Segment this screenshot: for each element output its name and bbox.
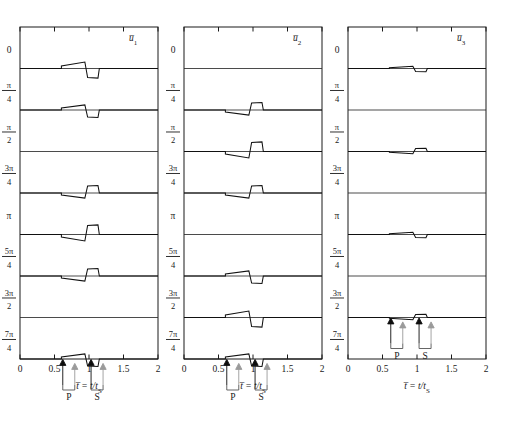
azimuth-label: 7π4 xyxy=(2,329,16,353)
svg-text:7π: 7π xyxy=(333,329,342,339)
component-label: u̅1 xyxy=(129,33,138,47)
p-phase-label: P xyxy=(394,351,399,361)
p-phase-label: P xyxy=(230,392,235,402)
panel-u2: 00.511.52t̅ = t/tSu̅20π4π23π4π5π43π27π4P… xyxy=(164,0,334,429)
azimuth-label: 3π4 xyxy=(330,163,344,187)
svg-text:t̅ = t/tS: t̅ = t/tS xyxy=(404,381,430,395)
svg-text:π: π xyxy=(7,122,12,132)
azimuth-label: π2 xyxy=(2,122,16,146)
svg-text:4: 4 xyxy=(335,343,340,353)
waveform-trace xyxy=(348,66,486,71)
azimuth-label: 3π2 xyxy=(2,288,16,312)
s-phase-label: S xyxy=(94,392,99,402)
p-phase-label: P xyxy=(66,392,71,402)
svg-text:3π: 3π xyxy=(333,288,342,298)
p-arrow-dark xyxy=(60,359,66,385)
svg-text:4: 4 xyxy=(171,94,176,104)
azimuth-label: π2 xyxy=(166,122,180,146)
p-arrow-light xyxy=(400,322,406,344)
p-marker-bracket xyxy=(63,385,75,390)
x-tick-label: 1.5 xyxy=(446,364,458,374)
x-tick-label: 1.5 xyxy=(118,364,130,374)
svg-text:3π: 3π xyxy=(169,163,178,173)
panel-u2-canvas: 00.511.52t̅ = t/tSu̅20π4π23π4π5π43π27π4P… xyxy=(164,0,334,429)
waveform-trace xyxy=(184,142,322,158)
svg-text:3π: 3π xyxy=(333,163,342,173)
azimuth-label: π xyxy=(7,211,12,221)
s-arrow-light xyxy=(100,363,106,385)
svg-text:4: 4 xyxy=(335,177,340,187)
svg-text:2: 2 xyxy=(7,301,11,311)
p-arrow-dark xyxy=(224,359,230,385)
seismogram-figure: 00.511.52t̅ = t/tSu̅10π4π23π4π5π43π27π4P… xyxy=(0,0,510,429)
x-tick-label: 0.5 xyxy=(49,364,61,374)
svg-text:5π: 5π xyxy=(5,246,14,256)
x-axis-title: t̅ = t/tS xyxy=(404,381,430,395)
svg-text:3π: 3π xyxy=(5,163,14,173)
s-arrow-dark xyxy=(416,318,422,344)
svg-text:4: 4 xyxy=(7,343,12,353)
azimuth-label: 3π2 xyxy=(330,288,344,312)
svg-text:7π: 7π xyxy=(5,329,14,339)
s-phase-label: S xyxy=(422,351,427,361)
p-arrow-dark xyxy=(388,318,394,344)
component-label: u̅3 xyxy=(457,33,466,47)
svg-text:4: 4 xyxy=(335,94,340,104)
x-tick-label: 1.5 xyxy=(282,364,294,374)
waveform-trace xyxy=(348,232,486,237)
azimuth-label: π xyxy=(335,211,340,221)
azimuth-label: π4 xyxy=(2,80,16,104)
azimuth-label: π4 xyxy=(166,80,180,104)
svg-text:u̅1: u̅1 xyxy=(129,33,138,47)
component-label: u̅2 xyxy=(293,33,302,47)
svg-text:u̅3: u̅3 xyxy=(457,33,466,47)
waveform-trace xyxy=(20,269,158,282)
x-tick-label: 2 xyxy=(156,364,161,374)
waveform-trace xyxy=(348,314,486,319)
svg-text:5π: 5π xyxy=(169,246,178,256)
panel-u3: 00.511.52t̅ = t/tSu̅30π4π23π4π5π43π27π4P… xyxy=(328,0,498,429)
svg-text:π: π xyxy=(335,122,340,132)
s-arrow-light xyxy=(428,322,434,344)
svg-text:2: 2 xyxy=(7,135,11,145)
x-tick-label: 2 xyxy=(484,364,489,374)
panel-u1-canvas: 00.511.52t̅ = t/tSu̅10π4π23π4π5π43π27π4P… xyxy=(0,0,170,429)
s-phase-label: S xyxy=(258,392,263,402)
waveform-trace xyxy=(20,105,158,118)
svg-text:3π: 3π xyxy=(169,288,178,298)
svg-text:4: 4 xyxy=(171,260,176,270)
svg-text:2: 2 xyxy=(335,135,339,145)
azimuth-label: 0 xyxy=(171,45,176,55)
waveform-trace xyxy=(20,186,158,199)
x-tick-label: 0 xyxy=(18,364,23,374)
svg-text:4: 4 xyxy=(7,94,12,104)
svg-text:3π: 3π xyxy=(5,288,14,298)
azimuth-label: 7π4 xyxy=(166,329,180,353)
x-tick-label: 2 xyxy=(320,364,325,374)
svg-text:7π: 7π xyxy=(169,329,178,339)
p-marker-bracket xyxy=(227,385,239,390)
azimuth-label: 5π4 xyxy=(2,246,16,270)
azimuth-label: 3π4 xyxy=(2,163,16,187)
svg-text:π: π xyxy=(7,80,12,90)
panel-u1: 00.511.52t̅ = t/tSu̅10π4π23π4π5π43π27π4P… xyxy=(0,0,170,429)
svg-text:π: π xyxy=(171,211,176,221)
waveform-trace xyxy=(348,148,486,153)
x-tick-label: 1 xyxy=(415,364,420,374)
waveform-trace xyxy=(184,271,322,284)
x-tick-label: 0 xyxy=(182,364,187,374)
azimuth-label: π2 xyxy=(330,122,344,146)
waveform-trace xyxy=(20,62,158,78)
s-arrow-light xyxy=(264,363,270,385)
svg-text:5π: 5π xyxy=(333,246,342,256)
svg-text:4: 4 xyxy=(7,177,12,187)
azimuth-label: 5π4 xyxy=(330,246,344,270)
svg-text:π: π xyxy=(335,80,340,90)
svg-text:π: π xyxy=(171,80,176,90)
svg-text:0: 0 xyxy=(335,45,340,55)
x-tick-label: 0.5 xyxy=(377,364,389,374)
svg-text:π: π xyxy=(171,122,176,132)
azimuth-label: 5π4 xyxy=(166,246,180,270)
svg-text:2: 2 xyxy=(335,301,339,311)
azimuth-label: 7π4 xyxy=(330,329,344,353)
